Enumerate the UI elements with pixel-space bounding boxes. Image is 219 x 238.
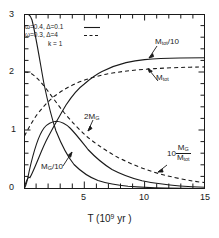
curve-label-2mg: 2MG bbox=[84, 113, 99, 122]
ratio-denominator: Mtot bbox=[176, 154, 191, 163]
x-tick-label-10: 10 bbox=[139, 192, 149, 202]
y-tick-label-3: 3 bbox=[9, 9, 14, 19]
two-mg-sub: G bbox=[95, 115, 99, 121]
curve-label-m-tot: Mtot bbox=[156, 74, 169, 83]
x-axis-title-tail: yr ) bbox=[114, 213, 131, 224]
x-axis-title: T (109 yr ) bbox=[0, 213, 219, 224]
annotation-leaders bbox=[63, 46, 167, 172]
mg-over-10-base: M bbox=[41, 162, 48, 171]
ratio-den-base: M bbox=[177, 153, 184, 162]
y-tick-label-1: 1 bbox=[11, 124, 16, 134]
ratio-num-sub: G bbox=[184, 146, 188, 152]
curve-label-m-tot-over-10: Mtot/10 bbox=[155, 38, 179, 47]
x-axis-title-main: T (10 bbox=[87, 213, 110, 224]
legend-entry-solid: ω=0.4, Δ=0.1 bbox=[25, 24, 63, 31]
legend-sample-lines bbox=[84, 28, 100, 36]
m-tot-sub: tot bbox=[163, 76, 169, 82]
curve-label-mg-over-10: MG/10 bbox=[41, 163, 63, 172]
curve-label-ratio: 10MGMtot bbox=[167, 144, 191, 163]
x-axis-ticks bbox=[36, 182, 204, 189]
two-mg-base: 2M bbox=[84, 112, 95, 121]
legend-entry-dashed: ω=0.3, Δ=4 bbox=[25, 32, 58, 39]
y-tick-label-2: 2 bbox=[9, 66, 14, 76]
mg-over-10-tail: /10 bbox=[52, 162, 63, 171]
m-tot-over-10-base: M bbox=[155, 37, 162, 46]
x-tick-label-5: 5 bbox=[81, 192, 86, 202]
x-tick-label-15: 15 bbox=[200, 192, 210, 202]
ratio-den-sub: tot bbox=[184, 156, 190, 162]
legend-entry-k: k = 1 bbox=[48, 41, 62, 48]
ratio-lead: 10 bbox=[167, 149, 176, 158]
y-tick-label-0: 0 bbox=[9, 182, 14, 192]
ratio-fraction: MGMtot bbox=[176, 144, 191, 163]
chart-figure: 3 2 1 0 5 10 15 ω=0.4, Δ=0.1 ω=0.3, Δ=4 … bbox=[0, 0, 219, 238]
curve-m-tot bbox=[25, 67, 206, 136]
m-tot-base: M bbox=[156, 73, 163, 82]
m-tot-over-10-tail: /10 bbox=[168, 37, 179, 46]
